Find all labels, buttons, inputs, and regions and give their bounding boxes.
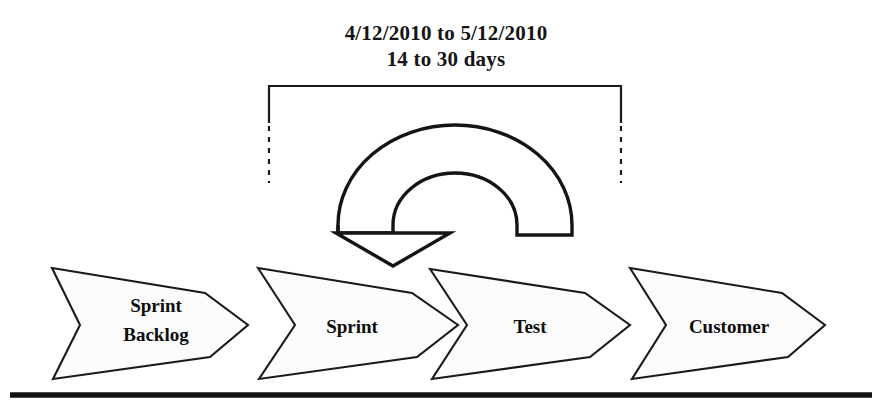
caption-duration: 14 to 30 days [387,47,506,71]
stage-label-sprint-backlog-line1: Sprint [130,295,182,316]
cycle-arrowhead-down [336,233,450,266]
stage-label-customer: Customer [689,316,770,337]
stage-label-sprint-backlog-line2: Backlog [123,324,189,345]
stage-label-test: Test [513,316,547,337]
caption-date-range: 4/12/2010 to 5/12/2010 [345,21,548,45]
diagram-canvas: 4/12/2010 to 5/12/2010 14 to 30 days Spr… [0,0,879,412]
sprint-cycle-arrow [336,125,572,266]
cycle-arrow-body [338,125,572,235]
stage-label-sprint: Sprint [326,316,378,337]
duration-caption: 4/12/2010 to 5/12/2010 14 to 30 days [345,21,548,71]
sprint-flow-diagram: 4/12/2010 to 5/12/2010 14 to 30 days Spr… [0,0,879,412]
bracket-solid-path [269,86,621,123]
